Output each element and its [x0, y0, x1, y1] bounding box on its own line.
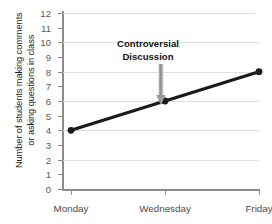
- y-axis-title-line-2: or asking questions in class: [25, 0, 37, 183]
- x-axis-line: [62, 189, 259, 191]
- y-axis-tick-label: 1: [46, 169, 51, 180]
- annotation-arrow-icon: [154, 64, 168, 106]
- x-axis-tick-label: Friday: [245, 203, 272, 214]
- annotation-line-1: Controversial: [100, 38, 196, 51]
- x-axis-tick: [165, 189, 166, 195]
- annotation-label: Controversial Discussion: [100, 38, 196, 63]
- x-axis-tick-label: Monday: [54, 203, 89, 214]
- chart-container: Number of students making comments or as…: [0, 0, 272, 224]
- x-axis-tick: [71, 189, 72, 195]
- y-axis-tick-label: 6: [46, 96, 51, 107]
- y-axis-tick-label: 4: [46, 125, 51, 136]
- x-axis-tick-label: Wednesday: [139, 203, 191, 214]
- y-axis-tick-label: 0: [46, 184, 51, 195]
- y-axis-tick-label: 10: [40, 37, 51, 48]
- x-axis-tick: [259, 189, 260, 195]
- y-axis-tick-label: 3: [46, 140, 51, 151]
- y-axis-title-line-1: Number of students making comments: [13, 0, 25, 183]
- y-axis-tick: 0: [58, 189, 63, 190]
- data-point: [256, 68, 263, 75]
- annotation-line-2: Discussion: [100, 51, 196, 64]
- y-axis-tick-label: 9: [46, 52, 51, 63]
- y-axis-tick-label: 7: [46, 81, 51, 92]
- y-axis-tick-label: 2: [46, 154, 51, 165]
- y-axis-tick-label: 8: [46, 66, 51, 77]
- y-axis-title: Number of students making comments or as…: [13, 0, 37, 183]
- data-point: [68, 127, 75, 134]
- y-axis-tick-label: 11: [41, 22, 51, 33]
- y-axis-tick-label: 12: [40, 8, 51, 19]
- y-axis-tick-label: 5: [46, 110, 51, 121]
